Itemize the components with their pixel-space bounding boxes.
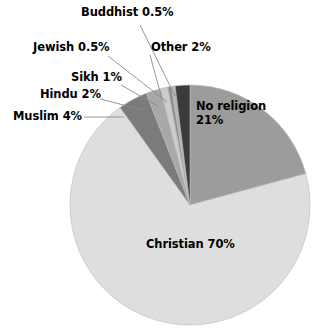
slice-label-muslim: Muslim 4% xyxy=(13,110,82,123)
slice-label-no-religion: No religion 21% xyxy=(196,99,266,128)
slice-label-no-religion-name: No religion xyxy=(196,99,266,113)
slice-label-buddhist: Buddhist 0.5% xyxy=(81,6,174,19)
slice-label-no-religion-value: 21% xyxy=(196,113,266,127)
slice-label-christian: Christian 70% xyxy=(146,237,235,251)
slice-label-other: Other 2% xyxy=(151,41,211,54)
slice-label-sikh: Sikh 1% xyxy=(71,71,122,84)
pie-chart-figure: Buddhist 0.5% Jewish 0.5% Sikh 1% Hindu … xyxy=(0,0,318,333)
slice-label-jewish: Jewish 0.5% xyxy=(33,41,109,54)
slice-label-hindu: Hindu 2% xyxy=(40,88,101,101)
pie-slices xyxy=(70,85,310,325)
